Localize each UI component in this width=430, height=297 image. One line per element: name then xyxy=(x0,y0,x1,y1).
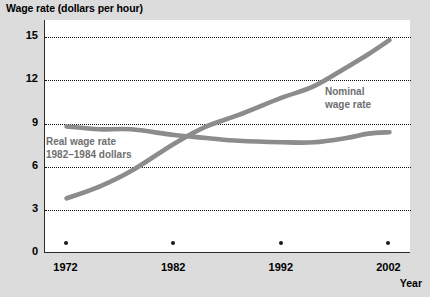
series-line-nominal xyxy=(67,40,390,198)
x-axis-title: Year xyxy=(400,277,422,289)
y-tick-label-0: 0 xyxy=(16,245,38,257)
series-label-real: Real wage rate 1982–1984 dollars xyxy=(46,136,132,161)
x-tick-label-1982: 1982 xyxy=(149,261,197,273)
x-tick-label-1992: 1992 xyxy=(257,261,305,273)
x-tick-label-1972: 1972 xyxy=(42,261,90,273)
series-label-nominal-line2: wage rate xyxy=(325,99,371,112)
x-tick-label-2002: 2002 xyxy=(364,261,412,273)
chart-title: Wage rate (dollars per hour) xyxy=(6,2,143,14)
x-tick-dot-1972 xyxy=(64,241,68,245)
series-label-nominal: Nominal wage rate xyxy=(325,86,371,111)
series-label-nominal-line1: Nominal xyxy=(325,86,371,99)
y-tick-label-9: 9 xyxy=(16,116,38,128)
y-tick-label-3: 3 xyxy=(16,202,38,214)
x-tick-dot-1992 xyxy=(279,241,283,245)
series-label-real-line2: 1982–1984 dollars xyxy=(46,149,132,162)
chart-figure: Wage rate (dollars per hour) 03691215 19… xyxy=(0,0,430,297)
y-tick-label-6: 6 xyxy=(16,159,38,171)
series-label-real-line1: Real wage rate xyxy=(46,136,132,149)
y-tick-label-12: 12 xyxy=(16,72,38,84)
y-tick-label-15: 15 xyxy=(16,29,38,41)
